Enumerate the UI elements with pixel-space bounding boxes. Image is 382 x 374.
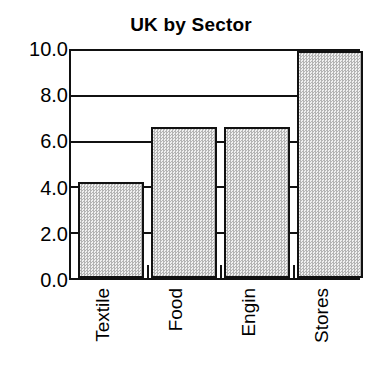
x-axis-label-engin: Engin xyxy=(240,288,258,337)
y-axis-tick-label-3: 6.0 xyxy=(2,131,68,151)
x-axis-label-textile: Textile xyxy=(94,288,112,342)
x-axis-tick-1 xyxy=(147,265,149,278)
y-axis-tick-label-4: 8.0 xyxy=(2,85,68,105)
bar-textile xyxy=(78,182,144,278)
plot-inner xyxy=(71,51,358,278)
x-axis-tick-3 xyxy=(293,265,295,278)
x-axis-label-food: Food xyxy=(167,288,185,331)
chart-title: UK by Sector xyxy=(0,14,382,36)
plot-area xyxy=(69,49,360,280)
x-axis-tick-2 xyxy=(220,265,222,278)
y-axis-tick-label-1: 2.0 xyxy=(2,224,68,244)
y-axis-tick-label-5: 10.0 xyxy=(2,39,68,59)
y-axis-tick-label-0: 0.0 xyxy=(2,270,68,290)
bar-stores xyxy=(297,51,363,278)
x-axis-label-stores: Stores xyxy=(313,288,331,343)
bar-chart: UK by Sector 0.0 2.0 4.0 6.0 8.0 10.0 Te… xyxy=(0,0,382,374)
y-axis-tick-label-2: 4.0 xyxy=(2,178,68,198)
bar-food xyxy=(151,127,217,278)
bar-engin xyxy=(224,127,290,278)
